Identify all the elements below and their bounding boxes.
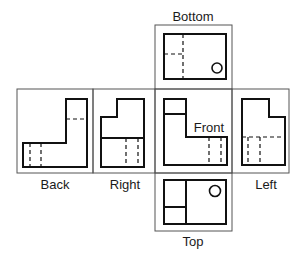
bottom-label: Bottom	[172, 9, 213, 24]
left-view	[242, 99, 285, 165]
top-frame	[155, 173, 232, 231]
back-label: Back	[41, 177, 70, 192]
right-view	[101, 99, 144, 167]
hole-circle	[210, 186, 221, 197]
back-view	[23, 99, 87, 167]
right-frame	[93, 89, 155, 173]
bottom-view	[164, 34, 226, 79]
left-label: Left	[255, 177, 277, 192]
top-view	[164, 180, 226, 224]
front-label: Front	[194, 120, 224, 135]
projection-diagram	[0, 0, 303, 259]
right-label: Right	[110, 177, 140, 192]
hole-circle	[212, 63, 222, 73]
back-frame	[17, 89, 93, 173]
top-label: Top	[183, 234, 204, 249]
